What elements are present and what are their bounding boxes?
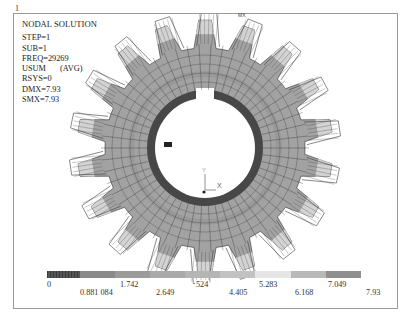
legend-band-9 [326, 271, 361, 278]
x-axis-label: X [217, 182, 222, 189]
y-axis-label: Y [202, 167, 206, 173]
legend-label-1: 0.881 084 [80, 288, 113, 297]
origin-marker-icon [202, 190, 205, 193]
legend-band-2 [80, 271, 115, 278]
legend-band-5 [185, 271, 220, 278]
legend-band-3 [115, 271, 150, 278]
legend-band-1 [47, 271, 80, 278]
legend-label-5: 4.405 [228, 288, 248, 297]
legend-label-0: 0 [47, 280, 51, 289]
legend-band-4 [150, 271, 185, 278]
max-marker-label: MX [238, 12, 246, 18]
gear-model [70, 12, 341, 284]
legend-label-8: 7.049 [328, 280, 346, 289]
legend-label-2: 1.742 [119, 280, 139, 289]
legend-band-6 [220, 271, 255, 278]
legend-label-3: 2.649 [155, 288, 175, 297]
contour-legend-bar [47, 271, 361, 278]
legend-label-7: 6.168 [295, 288, 313, 297]
legend-band-8 [291, 271, 326, 278]
legend-label-9: 7.93 [366, 288, 380, 297]
legend-band-7 [255, 271, 291, 278]
min-marker [164, 142, 172, 147]
legend-label-6: 5.283 [259, 280, 277, 289]
legend-label-4: 524 [195, 280, 209, 289]
